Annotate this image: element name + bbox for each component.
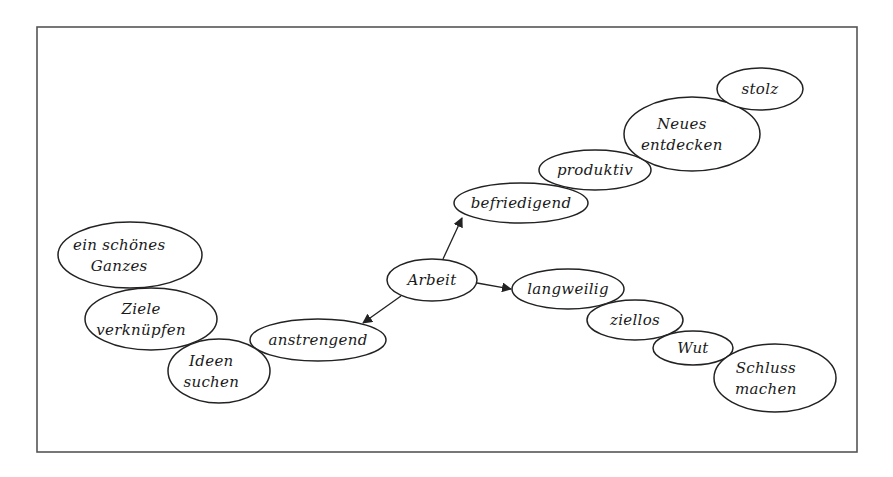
node-ein-schoenes-ganzes: ein schönesGanzes [58,222,202,288]
node-label: ein schönes [73,236,165,254]
node-ziele-verknuepfen: Zieleverknüpfen [85,288,217,350]
node-layer: befriedigendproduktivNeuesentdeckenstolz… [58,68,836,412]
node-ellipse [168,339,270,403]
node-anstrengend: anstrengend [250,319,386,361]
node-label: langweilig [527,280,609,298]
node-label: Wut [677,339,709,357]
node-label: Ziele [120,300,160,318]
node-stolz: stolz [717,68,803,110]
arrow-arbeit-to-anstrengend [363,296,401,323]
node-label: befriedigend [471,194,572,212]
node-label: produktiv [557,161,633,179]
node-label: Arbeit [405,271,457,289]
node-ellipse [85,288,217,350]
node-label: stolz [742,80,779,98]
mind-map-diagram: befriedigendproduktivNeuesentdeckenstolz… [0,0,893,477]
node-label: suchen [183,373,239,391]
arrow-arbeit-to-befriedigend [443,218,462,259]
node-schluss-machen: Schlussmachen [714,344,836,412]
node-label: anstrengend [268,331,367,349]
node-wut: Wut [653,331,733,365]
node-label: Schluss [736,359,796,377]
node-befriedigend: befriedigend [454,183,588,223]
node-arbeit: Arbeit [387,259,477,301]
node-label: Ganzes [91,257,148,275]
node-label: ziellos [609,311,660,329]
arrow-arbeit-to-langweilig [477,283,511,289]
node-label: Ideen [188,352,233,370]
node-ellipse [714,344,836,412]
node-label: Neues [656,115,707,133]
node-produktiv: produktiv [539,150,651,190]
node-label: machen [735,380,797,398]
node-label: entdecken [641,136,723,154]
node-label: verknüpfen [96,321,186,339]
node-ellipse [58,222,202,288]
node-ideen-suchen: Ideensuchen [168,339,270,403]
